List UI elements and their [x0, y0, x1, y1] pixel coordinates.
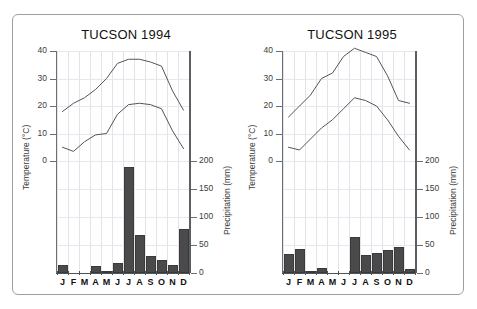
minimum-temperature-line [289, 98, 410, 150]
chart-panel-1995: TUCSON 1995 010203040 050100150200 Tempe… [239, 15, 465, 296]
maximum-temperature-line [63, 59, 184, 111]
maximum-temperature-line [289, 48, 410, 117]
figure-frame: TUCSON 1994 010203040 050100150200 Tempe… [12, 14, 464, 295]
chart-panel-1994: TUCSON 1994 010203040 050100150200 Tempe… [13, 15, 239, 296]
temperature-curves-1995 [239, 15, 465, 296]
minimum-temperature-line [63, 103, 184, 151]
climograph-figure: TUCSON 1994 010203040 050100150200 Tempe… [0, 0, 477, 309]
temperature-curves-1994 [13, 15, 239, 296]
